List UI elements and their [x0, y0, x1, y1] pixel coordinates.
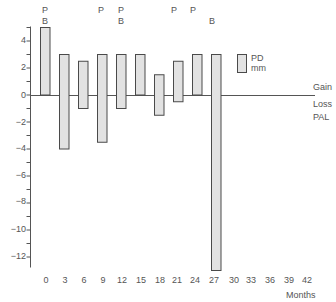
annotation-p: P — [164, 5, 184, 15]
legend-label-mm: mm — [251, 63, 266, 73]
annotation-p: P — [35, 5, 55, 15]
pd-pal-chart: 4 2 0 −2 −4 −6 −8 −10 −12 0 3 6 9 12 15 … — [0, 0, 336, 302]
legend-label-pd: PD — [251, 53, 264, 63]
annotation-b: B — [202, 16, 222, 26]
annotation-b: B — [111, 16, 131, 26]
bar-month-24 — [193, 55, 203, 96]
annotation-p: P — [111, 5, 131, 15]
annotation-p: P — [183, 5, 203, 15]
x-axis-title: Months — [286, 290, 316, 300]
bar-month-3 — [60, 55, 70, 150]
annotation-p: P — [91, 5, 111, 15]
y-tick-label: −4 — [4, 143, 26, 153]
y-tick-label: −6 — [4, 170, 26, 180]
y-tick-label: 4 — [4, 35, 26, 45]
x-tick-label: 3 — [55, 275, 75, 285]
gain-label: Gain — [313, 82, 332, 92]
annotation-b: B — [35, 16, 55, 26]
bar-month-15 — [136, 55, 146, 96]
x-tick-label: 12 — [112, 275, 132, 285]
bar-month-12 — [117, 55, 127, 109]
pal-label: PAL — [313, 112, 329, 122]
y-tick-label: −8 — [4, 196, 26, 206]
bar-month-27 — [212, 55, 222, 271]
y-tick-label: −10 — [4, 224, 26, 234]
x-tick-label: 15 — [131, 275, 151, 285]
x-tick-label: 21 — [167, 275, 187, 285]
legend-swatch — [237, 54, 247, 73]
x-tick-label: 36 — [260, 275, 280, 285]
x-tick-label: 24 — [185, 275, 205, 285]
bar-month-0 — [41, 28, 51, 96]
loss-label: Loss — [313, 99, 332, 109]
bar-month-9 — [98, 55, 108, 143]
x-tick-label: 9 — [93, 275, 113, 285]
y-tick-label: 2 — [4, 62, 26, 72]
bar-month-6 — [79, 61, 89, 108]
plot-area — [0, 0, 336, 302]
x-tick-label: 39 — [279, 275, 299, 285]
x-tick-label: 6 — [74, 275, 94, 285]
y-tick-label: −2 — [4, 117, 26, 127]
bar-month-21 — [174, 61, 184, 102]
x-tick-label: 42 — [297, 275, 317, 285]
x-tick-label: 27 — [204, 275, 224, 285]
bar-month-18 — [155, 75, 165, 116]
y-tick-label: 0 — [4, 90, 26, 100]
y-tick-label: −12 — [4, 251, 26, 261]
legend: PD mm — [237, 54, 287, 74]
x-tick-label: 0 — [36, 275, 56, 285]
x-tick-label: 33 — [241, 275, 261, 285]
